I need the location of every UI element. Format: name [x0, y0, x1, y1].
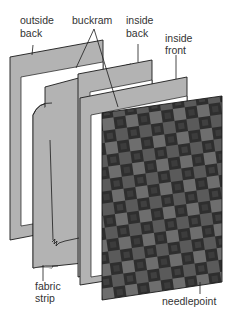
- label-needlepoint: needlepoint: [162, 295, 216, 307]
- label-inside-front-line2: front: [165, 44, 186, 56]
- label-inside-back-line2: back: [126, 27, 149, 39]
- assembly-diagram: outside back buckram inside back inside …: [0, 0, 239, 327]
- label-inside-front-line1: inside: [165, 32, 193, 44]
- label-inside-back-line1: inside: [126, 14, 154, 26]
- label-fabric-strip-line1: fabric: [35, 280, 61, 292]
- label-outside-back-line2: back: [20, 27, 43, 39]
- label-buckram: buckram: [72, 14, 113, 26]
- label-outside-back-line1: outside: [20, 14, 54, 26]
- label-fabric-strip-line2: strip: [35, 292, 55, 304]
- needlepoint-panel: [102, 96, 222, 300]
